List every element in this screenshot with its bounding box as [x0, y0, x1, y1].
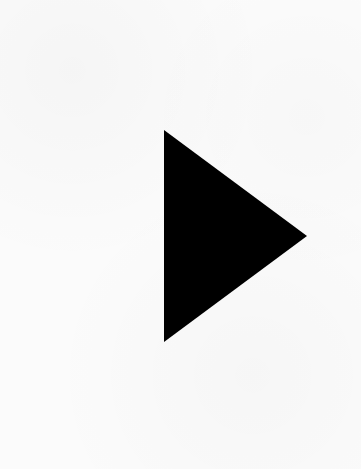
page-canvas — [0, 0, 361, 469]
play-icon[interactable] — [0, 0, 361, 469]
play-triangle-shape[interactable] — [164, 130, 307, 342]
